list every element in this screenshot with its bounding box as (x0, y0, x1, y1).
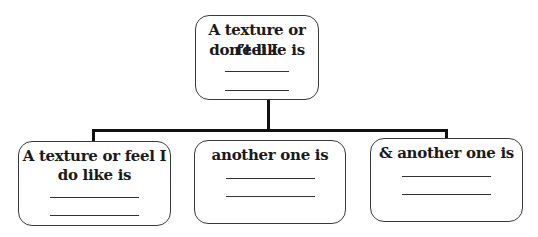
child-box-and-another: & another one is (370, 138, 523, 222)
child-2-blank-1[interactable] (226, 178, 315, 179)
connector-horizontal (92, 129, 448, 132)
child-box-do-like: A texture or feel I do like is (18, 141, 171, 226)
root-label-line2: don’t like is (196, 40, 318, 60)
root-box: A texture or feel I don’t like is (195, 15, 319, 100)
child-3-blank-1[interactable] (402, 176, 491, 177)
child-3-label-line1: & another one is (371, 143, 522, 163)
child-3-blank-2[interactable] (402, 194, 491, 195)
child-2-blank-2[interactable] (226, 196, 315, 197)
child-1-blank-2[interactable] (50, 215, 139, 216)
child-1-label-line1: A texture or feel I (19, 146, 170, 166)
root-blank-2[interactable] (225, 90, 289, 91)
child-1-blank-1[interactable] (50, 197, 139, 198)
connector-trunk (267, 99, 270, 131)
child-2-label-line1: another one is (195, 145, 345, 165)
child-1-label-line2: do like is (19, 165, 170, 185)
child-box-another: another one is (194, 140, 346, 224)
root-blank-1[interactable] (225, 71, 289, 72)
